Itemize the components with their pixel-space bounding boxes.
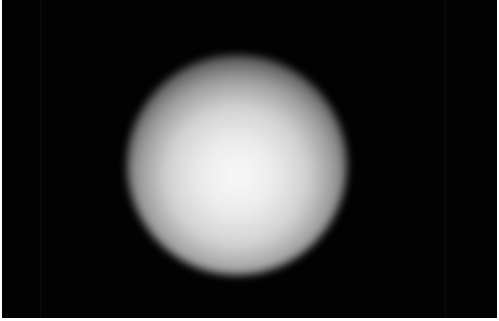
black-background — [2, 0, 497, 318]
faint-vertical-line — [445, 0, 446, 318]
glowing-orb — [127, 55, 347, 275]
faint-vertical-line — [40, 0, 41, 318]
